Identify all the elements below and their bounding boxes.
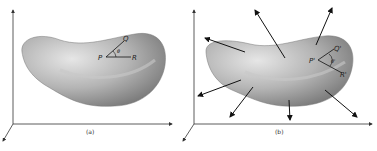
point-r-prime-label: R' [340,71,347,79]
panel-a: P Q R θ (a) [3,10,172,141]
caption-a: (a) [86,128,94,135]
caption-b: (b) [275,128,284,135]
point-r-label: R [132,54,137,62]
point-q-label: Q [123,35,129,43]
panel-b: P' Q' R' θ' (b) [183,8,372,141]
surface-a [22,33,166,106]
angle-prime-label: θ' [331,58,335,64]
angle-label: θ [117,48,120,54]
figure: P Q R θ (a) P' Q' R [0,0,377,151]
point-p-prime-label: P' [309,57,315,65]
point-q-prime-label: Q' [334,45,342,53]
